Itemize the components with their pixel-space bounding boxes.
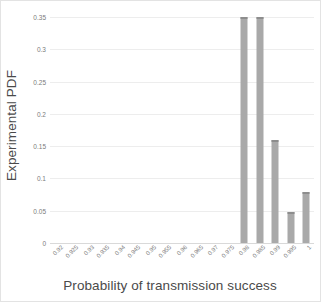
y-tick-label: 0.1 <box>37 175 46 182</box>
bar[interactable] <box>272 140 279 243</box>
y-tick-label: 0.15 <box>33 143 46 150</box>
x-tick-label-text: 0.98 <box>238 244 251 257</box>
bar-cap <box>272 140 279 142</box>
x-tick-label-text: 0.92 <box>51 244 64 257</box>
x-tick-label-text: 0.995 <box>282 244 297 259</box>
bar-cap <box>241 17 248 19</box>
x-tick-label-text: 0.955 <box>158 244 173 259</box>
bar-cap <box>256 17 263 19</box>
x-tick-label-text: 0.93 <box>83 244 96 257</box>
x-tick-label-text: 0.95 <box>145 244 158 257</box>
y-tick-label: 0.35 <box>33 14 46 21</box>
x-tick-label-text: 0.985 <box>251 244 266 259</box>
x-tick-label-text: 0.97 <box>207 244 220 257</box>
bar[interactable] <box>241 17 248 243</box>
x-tick-label-text: 0.965 <box>189 244 204 259</box>
y-tick-label: 0.3 <box>37 46 46 53</box>
y-tick-label: 0.25 <box>33 78 46 85</box>
x-axis-title: Probability of transmission success <box>25 278 315 293</box>
x-tick-label-text: 0.925 <box>65 244 80 259</box>
x-tick-label-text: 0.94 <box>114 244 127 257</box>
gridline <box>50 49 314 50</box>
x-tick-label-text: 0.96 <box>176 244 189 257</box>
y-axis-title: Experimental PDF <box>1 1 23 249</box>
bar-cap <box>287 212 294 214</box>
gridline <box>50 82 314 83</box>
y-tick-label: 0.05 <box>33 207 46 214</box>
y-tick-label: 0 <box>42 240 46 247</box>
x-tick-label-text: 0.945 <box>127 244 142 259</box>
x-tick-label-text: 0.99 <box>269 244 282 257</box>
bar-cap <box>303 192 310 194</box>
y-axis-title-label: Experimental PDF <box>5 69 20 180</box>
x-tick-label-text: 0.975 <box>220 244 235 259</box>
experimental-pdf-bar-chart: Experimental PDF 00.050.10.150.20.250.30… <box>0 0 321 302</box>
x-tick-label-text: 0.935 <box>96 244 111 259</box>
gridline <box>50 114 314 115</box>
y-axis-tick-labels: 00.050.10.150.20.250.30.35 <box>23 1 49 249</box>
x-tick-label-text: 1 <box>306 244 313 251</box>
gridline <box>50 17 314 18</box>
plot-area <box>50 17 314 243</box>
bar[interactable] <box>256 17 263 243</box>
y-tick-label: 0.2 <box>37 110 46 117</box>
x-axis-tick-labels: 0.920.9250.930.9350.940.9450.950.9550.96… <box>50 244 314 276</box>
